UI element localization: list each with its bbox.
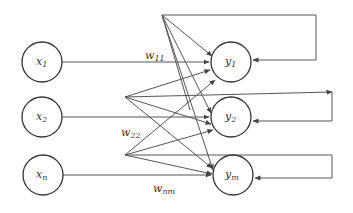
output-label-y2: y2	[225, 111, 236, 124]
feedback-loop-y2	[253, 92, 332, 121]
weight-label-wnm: wnm	[153, 183, 175, 196]
diagram-graphics	[0, 0, 353, 213]
input-label-x2: x2	[36, 111, 47, 124]
neural-network-diagram: x1 x2 xn y1 y2 ym w11 w22 wnm	[0, 0, 353, 213]
input-label-x1: x1	[36, 56, 47, 69]
weight-label-w11: w11	[145, 50, 165, 63]
weight-label-w22: w22	[121, 127, 141, 140]
output-label-y1: y1	[225, 56, 236, 69]
output-label-ym: ym	[225, 169, 239, 182]
input-label-xn: xn	[36, 169, 47, 182]
